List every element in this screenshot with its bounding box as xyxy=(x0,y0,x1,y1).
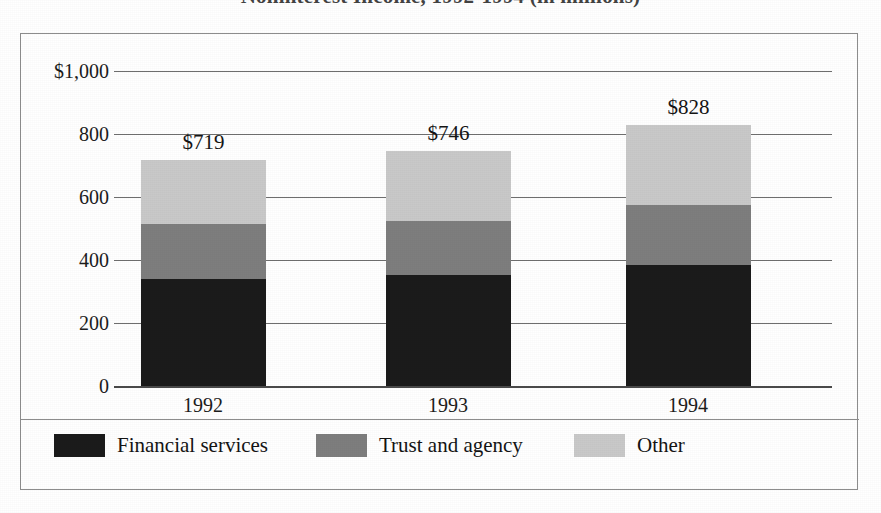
figure-root: Noninterest Income, 1992-1994 (in millio… xyxy=(0,0,881,513)
bar-segment-other-1993 xyxy=(386,151,511,221)
x-axis-label-1993: 1993 xyxy=(358,394,538,416)
legend-item-trust-and-agency: Trust and agency xyxy=(316,432,523,458)
bar-segment-financial-services-1994 xyxy=(626,265,751,386)
bar-segment-trust-and-agency-1994 xyxy=(626,205,751,265)
legend-divider xyxy=(21,419,859,420)
ytick-label-200: 200 xyxy=(23,313,109,333)
ytick-600: 600 xyxy=(21,187,109,207)
bar-total-label-1992: $719 xyxy=(141,131,266,153)
bar-total-label-1993: $746 xyxy=(386,122,511,144)
bar-segment-trust-and-agency-1993 xyxy=(386,221,511,275)
legend-swatch-other xyxy=(574,434,625,457)
ytick-label-1000: $1,000 xyxy=(23,61,109,81)
bar-segment-trust-and-agency-1992 xyxy=(141,224,266,279)
figure-caption: Noninterest Income, 1992-1994 (in millio… xyxy=(0,0,881,9)
ytick-label-800: 800 xyxy=(23,124,109,144)
x-axis-baseline xyxy=(114,386,832,388)
ytick-label-600: 600 xyxy=(23,187,109,207)
chart-frame: $1,000 800 600 400 200 0 $719 xyxy=(20,33,858,490)
plot-area: $1,000 800 600 400 200 0 $719 xyxy=(21,34,859,491)
x-axis-label-1994: 1994 xyxy=(598,394,778,416)
gridline-1000 xyxy=(114,71,832,72)
legend-label-trust-and-agency: Trust and agency xyxy=(379,434,523,457)
figure-caption-clip: Noninterest Income, 1992-1994 (in millio… xyxy=(0,0,881,11)
legend-label-other: Other xyxy=(637,434,685,457)
bar-segment-other-1992 xyxy=(141,160,266,224)
bar-segment-financial-services-1992 xyxy=(141,279,266,386)
ytick-label-0: 0 xyxy=(23,376,109,396)
x-axis-label-1992: 1992 xyxy=(113,394,293,416)
bar-1993 xyxy=(386,151,511,386)
ytick-200: 200 xyxy=(21,313,109,333)
bar-1994 xyxy=(626,125,751,386)
legend-item-other: Other xyxy=(574,432,685,458)
ytick-400: 400 xyxy=(21,250,109,270)
bar-segment-financial-services-1993 xyxy=(386,275,511,386)
bar-1992 xyxy=(141,160,266,386)
ytick-label-400: 400 xyxy=(23,250,109,270)
legend-item-financial-services: Financial services xyxy=(54,432,268,458)
legend-swatch-trust-and-agency xyxy=(316,434,367,457)
ytick-1000: $1,000 xyxy=(21,61,109,81)
ytick-0: 0 xyxy=(21,376,109,396)
legend-label-financial-services: Financial services xyxy=(117,434,268,457)
legend-swatch-financial-services xyxy=(54,434,105,457)
bar-segment-other-1994 xyxy=(626,125,751,205)
ytick-800: 800 xyxy=(21,124,109,144)
bar-total-label-1994: $828 xyxy=(626,96,751,118)
